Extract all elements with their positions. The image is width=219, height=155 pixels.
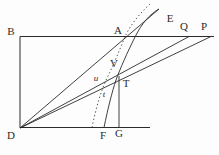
label-D: D [7, 129, 15, 141]
label-B: B [7, 25, 14, 37]
label-P: P [201, 20, 207, 32]
ray-D-to-E [20, 9, 159, 128]
point-labels: B A E Q P V T u t D F G [7, 12, 207, 141]
label-G: G [115, 127, 123, 139]
label-E: E [167, 12, 174, 24]
curve-group [92, 3, 159, 128]
label-F: F [100, 129, 106, 141]
label-t: t [103, 89, 106, 99]
label-Q: Q [180, 20, 188, 32]
label-A: A [114, 24, 122, 36]
ray-D-to-Q [20, 37, 189, 129]
label-u: u [94, 73, 99, 83]
diagram-canvas: B A E Q P V T u t D F G [0, 0, 219, 155]
label-V: V [110, 57, 118, 69]
geometry-diagram: B A E Q P V T u t D F G [0, 0, 219, 155]
label-T: T [123, 77, 130, 89]
